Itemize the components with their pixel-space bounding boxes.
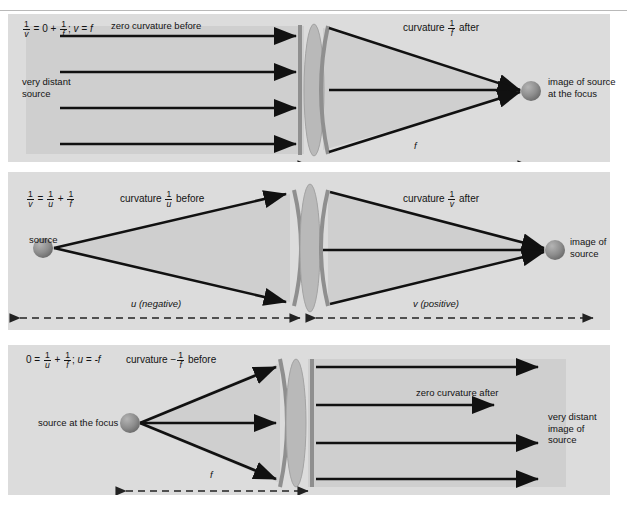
panel-1-equation: 1v = 0 + 1f; v = f [22,20,93,39]
panel-2-equation: 1v = 1u + 1f [26,190,75,209]
panel-2-dimension-right-label: v (positive) [413,298,459,310]
panel-2-source-label: source [29,234,58,246]
panel-3-dimension-label: f [210,469,213,481]
panel-1-dimension-label: f [414,140,417,152]
panel-3-image-label: very distant image of source [548,411,597,446]
panel-1-image-label: image of source at the focus [548,76,616,99]
top-cut-text [0,0,627,10]
panel-2-before-label: curvature 1u before [120,190,204,209]
panel-2-diagram [8,172,610,330]
panel-3: 0 = 1u + 1f; u = -f curvature −1f before… [8,345,610,495]
panel-3-source-label: source at the focus [38,417,118,429]
panel-2-after-label: curvature 1v after [403,190,479,209]
panel-1-after-label: curvature 1f after [403,19,479,38]
panel-3-equation: 0 = 1u + 1f; u = -f [26,351,101,370]
panel-2-image-label: image of source [570,236,606,259]
panel-3-after-label: zero curvature after [416,387,498,399]
panel-1-before-label: zero curvature before [111,20,201,32]
panel-2-dimension-left-label: u (negative) [131,298,181,310]
panel-3-before-label: curvature −1f before [126,351,216,370]
header-rule [0,10,627,11]
panel-1-diagram [8,14,610,162]
panel-1: 1v = 0 + 1f; v = f zero curvature before… [8,14,610,162]
panel-1-source-label: very distant source [22,76,71,99]
panel-2: 1v = 1u + 1f curvature 1u before curvatu… [8,172,610,330]
